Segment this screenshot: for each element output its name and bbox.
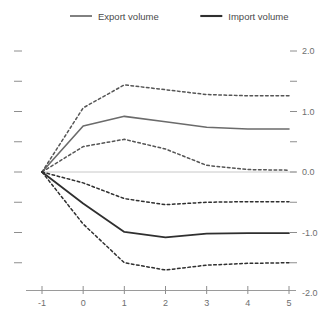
- y-tick-label: 2.0: [302, 46, 315, 56]
- x-tick-label: 2: [163, 298, 168, 308]
- y-tick-label: -1.0: [302, 228, 318, 238]
- y-tick-label: 0.0: [302, 167, 315, 177]
- chart-container: Export volumeImport volume -2.0-1.00.01.…: [0, 0, 333, 324]
- y-tick-label: -2.0: [302, 288, 318, 298]
- x-tick-label: 1: [122, 298, 127, 308]
- x-tick-label: 4: [245, 298, 250, 308]
- y-tick-label: 1.0: [302, 107, 315, 117]
- x-tick-label: -1: [38, 298, 46, 308]
- legend-label: Import volume: [228, 11, 288, 22]
- x-tick-label: 5: [286, 298, 291, 308]
- line-chart: Export volumeImport volume -2.0-1.00.01.…: [0, 0, 333, 324]
- legend-label: Export volume: [98, 11, 159, 22]
- x-tick-label: 3: [204, 298, 209, 308]
- x-tick-label: 0: [81, 298, 86, 308]
